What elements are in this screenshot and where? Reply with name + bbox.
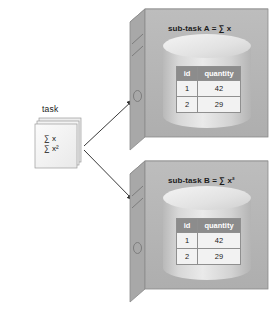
arrow-task-to-subtask-b [84,150,133,200]
cell-id: 1 [177,233,198,249]
table-row[interactable]: 2 29 [177,97,241,113]
table-row[interactable]: 1 42 [177,81,241,97]
table-header-row: id quantity [177,67,241,81]
cell-id: 2 [177,97,198,113]
cell-quantity: 29 [198,97,241,113]
server-a-left-face [130,9,145,150]
cell-id: 1 [177,81,198,97]
column-header-id: id [177,67,198,81]
column-header-id: id [177,219,198,233]
task-formula-line-1: ∑ x [44,134,59,144]
arrow-task-to-subtask-a [84,100,133,146]
server-b-data-table[interactable]: id quantity 1 42 2 29 [176,218,241,265]
server-a-data-table[interactable]: id quantity 1 42 2 29 [176,66,241,113]
cell-quantity: 29 [198,249,241,265]
cell-id: 2 [177,249,198,265]
column-header-quantity: quantity [198,219,241,233]
cell-quantity: 42 [198,233,241,249]
server-b-title: sub-task B = ∑ x² [168,176,235,185]
diagram-canvas: task ∑ x ∑ x² sub-task A = ∑ x id quanti… [0,0,279,320]
task-label: task [42,104,58,114]
table-header-row: id quantity [177,219,241,233]
server-a-title: sub-task A = ∑ x [168,24,231,33]
task-formula-line-2: ∑ x² [44,144,59,154]
cell-quantity: 42 [198,81,241,97]
table-row[interactable]: 2 29 [177,249,241,265]
diagram-vector-layer [0,0,279,320]
table-row[interactable]: 1 42 [177,233,241,249]
column-header-quantity: quantity [198,67,241,81]
task-formulas: ∑ x ∑ x² [44,134,59,154]
server-b-left-face [130,161,145,302]
